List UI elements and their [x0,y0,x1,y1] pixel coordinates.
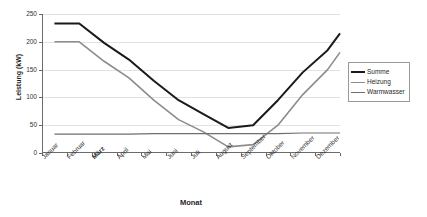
plot-frame: 050100150200250 [42,14,340,153]
legend-item[interactable]: Heizung [351,77,405,87]
x-axis-title: Monat [42,198,340,207]
y-tick-label: 0 [33,150,37,157]
y-tick-label: 200 [26,39,37,46]
y-axis-title: Leistung (kW) [15,54,22,100]
legend-item[interactable]: Warmwasser [351,87,405,97]
legend-line-swatch [351,92,365,93]
legend-label: Heizung [367,79,391,86]
legend-item[interactable]: Summe [351,67,405,77]
y-axis-title-wrap: Leistung (kW) [12,22,26,132]
y-tick-label: 150 [26,66,37,73]
legend-line-swatch [351,71,365,73]
legend-line-swatch [351,82,365,83]
legend-label: Summe [367,69,389,76]
series-line-summe [54,23,340,128]
y-tick-label: 250 [26,11,37,18]
x-axis-labels: JanuarFebruarMärzAprilMaiJuniJuliAugustS… [42,156,340,200]
x-tick-mark [340,153,341,156]
legend-label: Warmwasser [367,89,405,96]
legend: SummeHeizungWarmwasser [348,62,410,102]
series-line-heizung [54,42,340,147]
y-tick-label: 100 [26,94,37,101]
series-group [42,14,340,153]
line-chart: Leistung (kW) 050100150200250 JanuarFebr… [0,0,427,217]
plot-area: 050100150200250 [42,14,340,153]
y-tick-label: 50 [30,122,37,129]
series-line-warmwasser [54,133,340,134]
